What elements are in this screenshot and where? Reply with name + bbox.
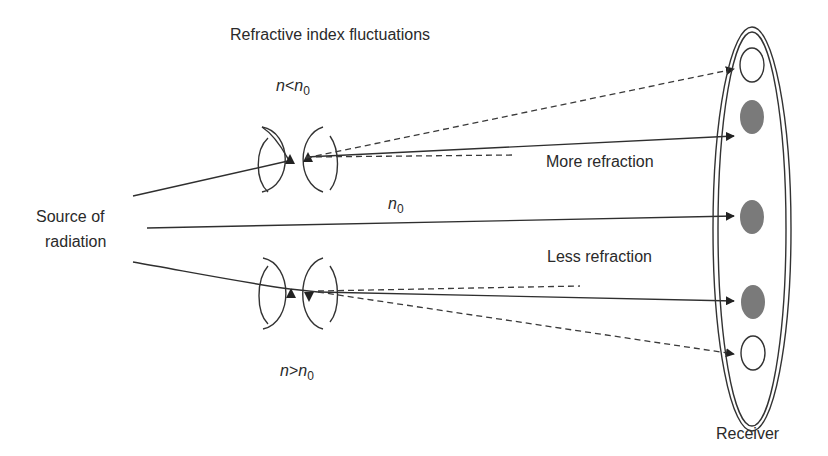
- upper-scattered-dashed-ray: [306, 69, 734, 158]
- lower-eddy-pair: [259, 258, 338, 329]
- upper-filled-spot-icon: [740, 100, 764, 134]
- left-eddy-arc-outer: [258, 138, 268, 192]
- refraction-diagram: Refractive index fluctuations n<n0 Sourc…: [0, 0, 828, 456]
- lower-condition-label: n>n0: [280, 362, 314, 383]
- upper-refracted-ray: [306, 136, 734, 157]
- lower-refracted-ray: [318, 292, 734, 301]
- less-refraction-label: Less refraction: [547, 248, 652, 265]
- source-label-line1: Source of: [36, 208, 105, 225]
- center-filled-spot-icon: [740, 200, 764, 234]
- lower-eddy-arrowhead-down-icon: [304, 292, 314, 302]
- center-n0-label: n0: [388, 195, 404, 216]
- receiver-label: Receiver: [716, 425, 780, 442]
- diagram-title: Refractive index fluctuations: [230, 26, 430, 43]
- lower-incident-ray: [133, 262, 318, 292]
- more-refraction-label: More refraction: [546, 153, 654, 170]
- receiver: [713, 27, 791, 431]
- lower-scattered-dashed-ray: [318, 292, 734, 354]
- upper-eddy-pair: [258, 127, 337, 192]
- bottom-empty-spot-icon: [741, 336, 765, 370]
- top-empty-spot-icon: [740, 48, 764, 82]
- source-label-line2: radiation: [45, 233, 106, 250]
- center-ray: [147, 216, 734, 228]
- lower-filled-spot-icon: [741, 285, 765, 319]
- lower-reference-dashed-line: [318, 286, 580, 291]
- upper-condition-label: n<n0: [276, 77, 310, 98]
